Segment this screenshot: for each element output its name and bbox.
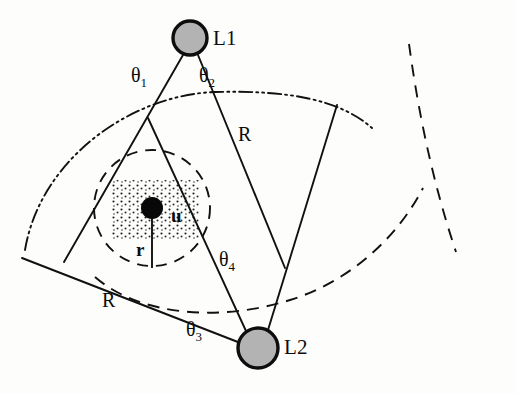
- landmark-node-l1: [173, 21, 207, 55]
- unknown-node-label-u: u: [171, 205, 182, 227]
- angle-label-theta2: θ2: [199, 64, 215, 91]
- angle-label-theta1: θ1: [131, 64, 147, 91]
- right-outer-arc: [409, 44, 456, 252]
- l2-lower-left-chord: [22, 258, 243, 344]
- angle-label-theta4: θ4: [219, 248, 235, 275]
- node-label-l2: L2: [284, 335, 308, 360]
- node-label-l1: L1: [213, 26, 237, 51]
- radius-label-r: r: [136, 239, 144, 261]
- distance-label-r-upper: R: [238, 123, 251, 146]
- diagram-canvas: L1 L2 u r R R θ1 θ2 θ3 θ4: [0, 0, 516, 394]
- distance-label-r-lower: R: [102, 289, 115, 312]
- unknown-node-u-dot: [141, 197, 163, 219]
- landmark-node-l2: [238, 328, 278, 368]
- l2-right-ray: [268, 105, 337, 330]
- angle-label-theta3: θ3: [186, 318, 202, 345]
- geometry-scene: [0, 0, 516, 394]
